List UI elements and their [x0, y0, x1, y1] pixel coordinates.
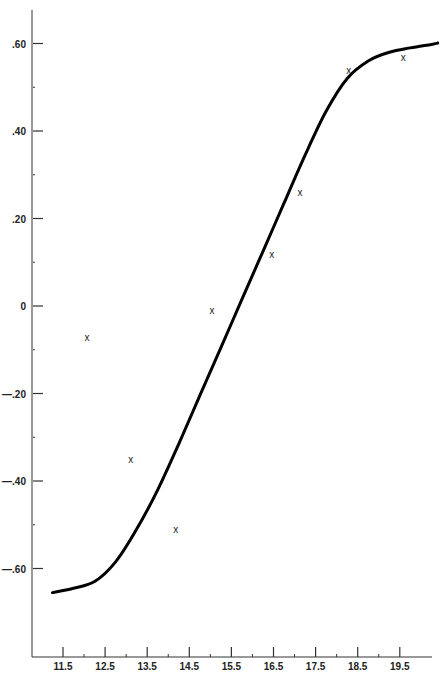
- x-tick-label: 19.5: [390, 661, 410, 672]
- chart: .60.40.200—.20—.40—.60 11.512.513.514.51…: [0, 0, 446, 676]
- x-tick-label: 18.5: [348, 661, 368, 672]
- data-point-marker: x: [128, 454, 133, 465]
- x-tick-label: 14.5: [180, 661, 200, 672]
- data-point-marker: x: [401, 52, 406, 63]
- data-point-marker: x: [210, 305, 215, 316]
- y-ticks: .60.40.200—.20—.40—.60: [2, 39, 43, 575]
- x-tick-label: 15.5: [222, 661, 242, 672]
- x-tick-label: 11.5: [54, 661, 73, 672]
- y-tick-label: —.20: [2, 389, 26, 400]
- x-ticks: 11.512.513.514.515.516.517.518.519.5: [54, 647, 410, 672]
- x-tick-label: 13.5: [137, 661, 157, 672]
- y-tick-label: —.40: [2, 476, 26, 487]
- data-point-marker: x: [173, 524, 178, 535]
- data-point-marker: x: [346, 65, 351, 76]
- y-tick-label: .60: [12, 39, 26, 50]
- x-tick-label: 12.5: [95, 661, 115, 672]
- y-tick-label: 0: [20, 301, 26, 312]
- x-tick-label: 17.5: [306, 661, 326, 672]
- y-tick-label: .40: [12, 126, 26, 137]
- x-tick-label: 16.5: [264, 661, 284, 672]
- y-tick-label: —.60: [2, 564, 26, 575]
- data-point-marker: x: [269, 249, 274, 260]
- data-point-marker: x: [84, 332, 89, 343]
- y-tick-label: .20: [12, 214, 26, 225]
- data-point-marker: x: [298, 187, 303, 198]
- fitted-curve: [53, 43, 438, 593]
